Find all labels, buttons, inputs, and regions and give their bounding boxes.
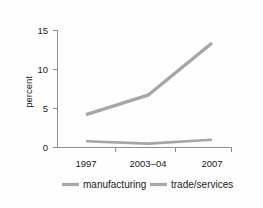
y-tick-label-5: 5 — [43, 103, 48, 114]
series-line-manufacturing — [86, 43, 212, 115]
y-tick-label-10: 10 — [37, 64, 48, 75]
x-tick-label-1997: 1997 — [75, 158, 96, 169]
x-tick-label-2003-04: 2003–04 — [130, 158, 167, 169]
y-tick-label-0: 0 — [43, 142, 48, 153]
legend-label-trade-services: trade/services — [171, 179, 233, 190]
chart-container: 15 10 5 0 percent 1997 2003–04 2007 manu… — [0, 0, 263, 208]
legend: manufacturing trade/services — [62, 179, 233, 190]
y-axis-title: percent — [23, 76, 34, 108]
y-tick-label-15: 15 — [37, 25, 48, 36]
line-chart: 15 10 5 0 percent 1997 2003–04 2007 manu… — [0, 0, 263, 208]
x-tick-label-2007: 2007 — [201, 158, 222, 169]
legend-label-manufacturing: manufacturing — [83, 179, 146, 190]
series-line-trade-services — [86, 140, 212, 144]
